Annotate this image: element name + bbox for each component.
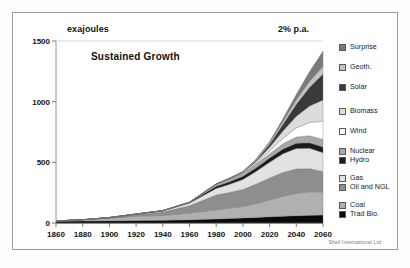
legend-swatch [339, 175, 346, 182]
legend-item-geoth[interactable]: Geoth. [339, 63, 410, 71]
legend-item-biomass[interactable]: Biomass [339, 107, 410, 115]
legend-label: Geoth. [350, 63, 372, 71]
legend-item-coal[interactable]: Coal [339, 201, 410, 209]
x-tick-label: 1900 [101, 230, 119, 239]
legend-swatch [339, 148, 346, 155]
y-tick-label: 1000 [32, 98, 50, 107]
legend-item-trad-bio[interactable]: Trad Bio. [339, 210, 410, 218]
legend-swatch [339, 44, 346, 51]
legend-swatch [339, 202, 346, 209]
x-tick-label: 1980 [207, 230, 225, 239]
y-tick-label: 1500 [32, 37, 50, 46]
legend-label: Solar [350, 83, 367, 91]
legend-label: Biomass [350, 107, 378, 115]
y-tick-label: 0 [46, 219, 51, 228]
legend-swatch [339, 84, 346, 91]
area-series-group [56, 51, 323, 223]
x-tick-label: 2000 [234, 230, 252, 239]
legend-swatch [339, 128, 346, 135]
legend-label: Gas [350, 174, 363, 182]
x-tick-label: 1880 [74, 230, 92, 239]
chart-figure: exajoules 2% p.a. Sustained Growth 05001… [0, 0, 410, 268]
legend-label: Surprise [350, 43, 377, 51]
legend: SurpriseGeoth.SolarBiomassWindNuclearHyd… [339, 43, 410, 239]
x-tick-label: 2040 [287, 230, 305, 239]
legend-item-nuclear[interactable]: Nuclear [339, 147, 410, 155]
legend-swatch [339, 157, 346, 164]
legend-label: Coal [350, 201, 365, 209]
x-tick-label: 1940 [154, 230, 172, 239]
x-tick-label: 1920 [127, 230, 145, 239]
legend-item-wind[interactable]: Wind [339, 127, 410, 135]
legend-item-gas[interactable]: Gas [339, 174, 410, 182]
x-tick-label: 1960 [181, 230, 199, 239]
legend-item-oil-and-ngl[interactable]: Oil and NGL [339, 183, 410, 191]
legend-label: Hydro [350, 156, 369, 164]
legend-swatch [339, 64, 346, 71]
x-tick-label: 2020 [261, 230, 279, 239]
legend-swatch [339, 108, 346, 115]
figure-border: exajoules 2% p.a. Sustained Growth 05001… [12, 12, 398, 250]
legend-item-solar[interactable]: Solar [339, 83, 410, 91]
legend-label: Wind [350, 127, 366, 135]
y-tick-label: 500 [37, 158, 51, 167]
legend-swatch [339, 184, 346, 191]
legend-item-hydro[interactable]: Hydro [339, 156, 410, 164]
x-tick-label: 2060 [314, 230, 332, 239]
x-tick-label: 1860 [47, 230, 65, 239]
legend-swatch [339, 211, 346, 218]
source-credit: Shell International Ltd [329, 239, 381, 245]
legend-label: Trad Bio. [350, 210, 379, 218]
legend-label: Oil and NGL [350, 183, 390, 191]
legend-label: Nuclear [350, 147, 375, 155]
legend-item-surprise[interactable]: Surprise [339, 43, 410, 51]
